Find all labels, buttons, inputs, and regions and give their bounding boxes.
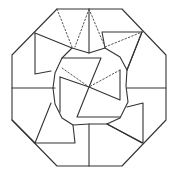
diagram-stage: [0, 0, 175, 174]
crease-line: [75, 9, 89, 47]
dotted-crease-lines: [57, 9, 142, 87]
fold-line: [35, 103, 51, 143]
fold-line: [35, 33, 51, 74]
crease-line: [89, 9, 105, 47]
crease-line: [89, 70, 120, 87]
crease-line: [62, 68, 89, 87]
fold-line: [12, 120, 35, 143]
crease-line: [57, 9, 72, 47]
fold-line: [105, 48, 127, 70]
fold-line: [107, 124, 142, 143]
crease-pattern-diagram: [0, 0, 175, 174]
